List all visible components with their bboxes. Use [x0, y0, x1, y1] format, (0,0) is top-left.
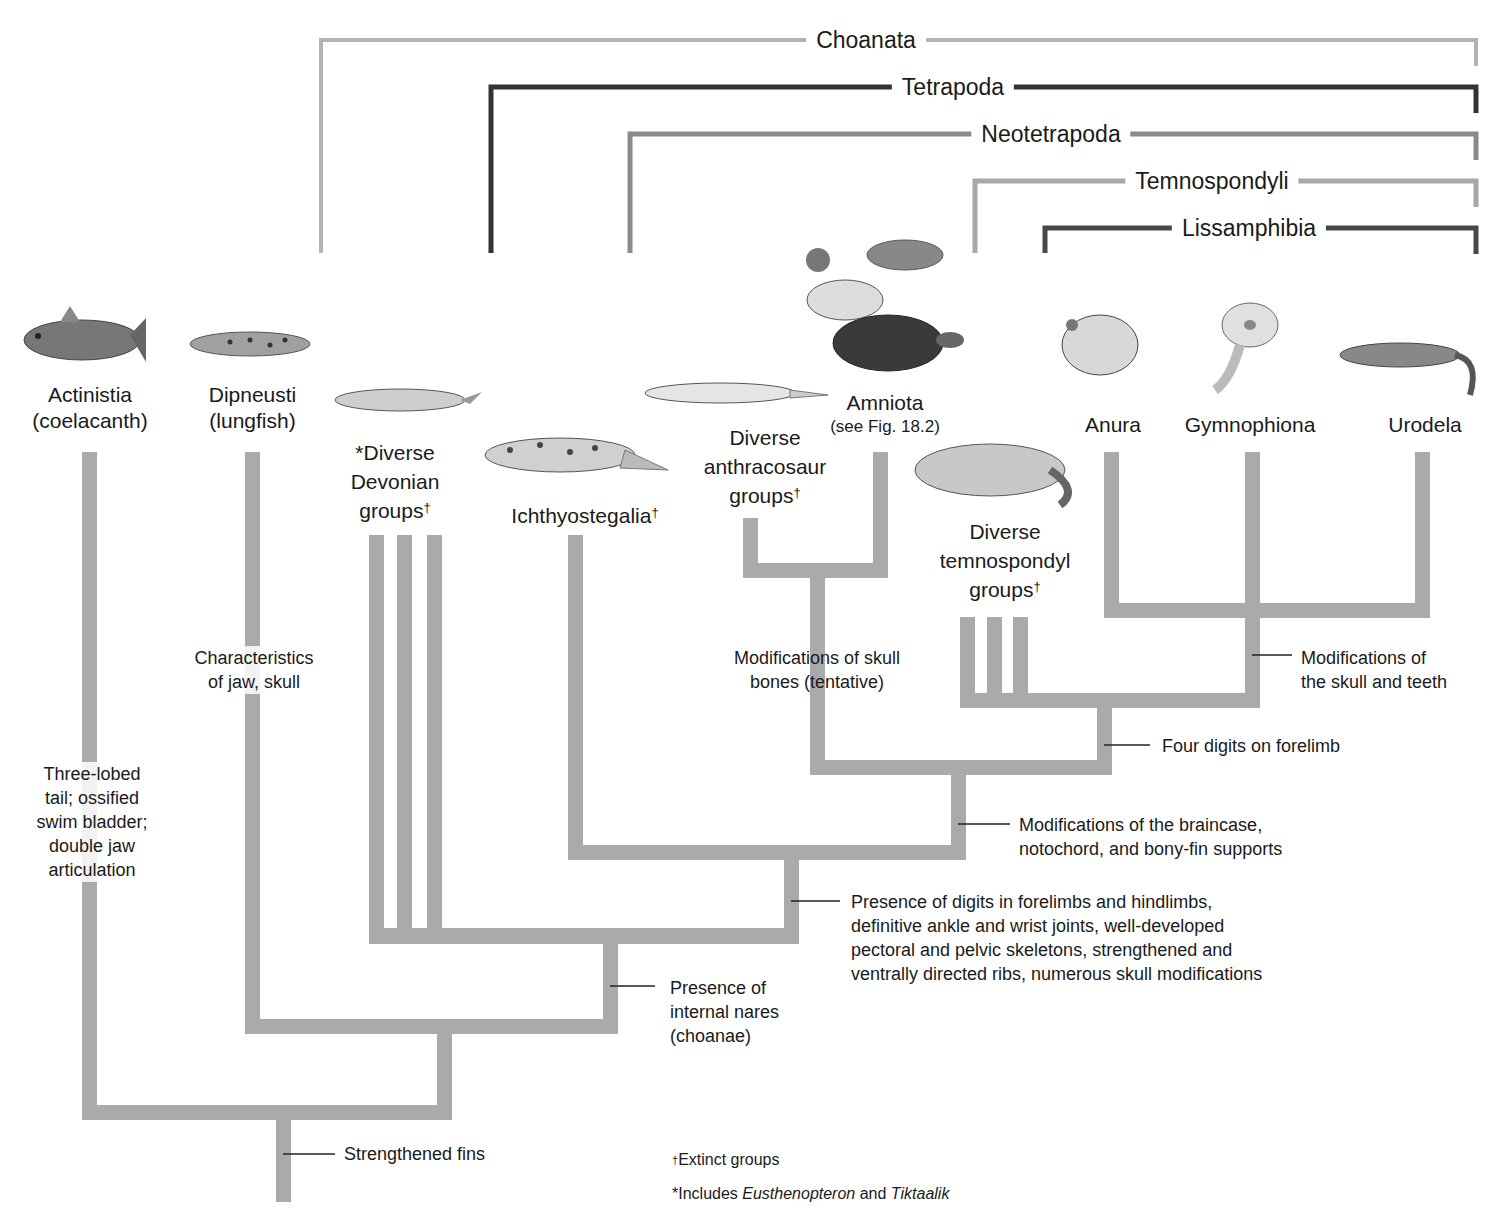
clade-label-tetrapoda: Tetrapoda	[892, 74, 1014, 100]
label-line: Modifications of	[1301, 646, 1447, 670]
taxon-temnospondyl-groups: Diverse temnospondyl groups†	[920, 517, 1090, 604]
clade-bracket-neotetrapoda	[630, 134, 1476, 253]
footnote-extinct: †Extinct groups	[672, 1150, 780, 1170]
footnote-includes: *Includes Eusthenopteron and Tiktaalik	[672, 1184, 949, 1204]
extinct-dagger: †	[423, 500, 430, 515]
label-line: anthracosaur	[690, 452, 840, 481]
ichthyostega-icon	[485, 438, 668, 472]
taxon-actinistia: Actinistia (coelacanth)	[20, 382, 160, 434]
footnote-text: Extinct groups	[678, 1151, 779, 1168]
character-three-lobed-tail: Three-lobed tail; ossified swim bladder;…	[22, 762, 162, 882]
taxon-devonian-groups: *Diverse Devonian groups†	[335, 438, 455, 525]
label-line: Three-lobed	[22, 762, 162, 786]
taxon-urodela: Urodela	[1370, 412, 1480, 438]
character-strengthened-fins: Strengthened fins	[344, 1142, 485, 1166]
taxon-name: Dipneusti	[185, 382, 320, 408]
character-four-digits: Four digits on forelimb	[1162, 734, 1340, 758]
label-line: groups†	[335, 496, 455, 525]
label-line: ventrally directed ribs, numerous skull …	[851, 962, 1262, 986]
taxon-anura: Anura	[1070, 412, 1156, 438]
label-line: pectoral and pelvic skeletons, strengthe…	[851, 938, 1262, 962]
taxon-dipneusti: Dipneusti (lungfish)	[185, 382, 320, 434]
label-line: articulation	[22, 858, 162, 882]
label-line: groups†	[690, 481, 840, 510]
taxon-name: Amniota	[815, 390, 955, 416]
label-line: notochord, and bony-fin supports	[1019, 837, 1282, 861]
figure-reference: (see Fig. 18.2)	[815, 416, 955, 438]
character-skull-bones: Modifications of skull bones (tentative)	[712, 646, 922, 694]
label-line: Presence of digits in forelimbs and hind…	[851, 890, 1262, 914]
label-line: Characteristics	[180, 646, 328, 670]
clade-label-neotetrapoda: Neotetrapoda	[971, 121, 1130, 147]
clade-label-choanata: Choanata	[806, 27, 926, 53]
label-line: Diverse	[920, 517, 1090, 546]
genus-name: Tiktaalik	[891, 1185, 950, 1202]
character-braincase: Modifications of the braincase, notochor…	[1019, 813, 1282, 861]
label-line: Presence of	[670, 976, 779, 1000]
label-line: swim bladder;	[22, 810, 162, 834]
extinct-dagger: †	[793, 485, 800, 500]
label-text: groups	[729, 484, 793, 507]
character-digits-limbs: Presence of digits in forelimbs and hind…	[851, 890, 1262, 986]
extinct-dagger: †	[651, 505, 658, 520]
taxon-common-name: (coelacanth)	[20, 408, 160, 434]
label-line: of jaw, skull	[180, 670, 328, 694]
frog-icon	[1062, 315, 1138, 375]
taxon-amniota: Amniota (see Fig. 18.2)	[815, 390, 955, 438]
character-skull-teeth: Modifications of the skull and teeth	[1301, 646, 1447, 694]
label-line: internal nares	[670, 1000, 779, 1024]
salamander-icon	[1340, 343, 1473, 395]
character-jaw-skull: Characteristics of jaw, skull	[180, 646, 328, 694]
label-line: tail; ossified	[22, 786, 162, 810]
turtle-icon	[833, 315, 964, 371]
label-line: the skull and teeth	[1301, 670, 1447, 694]
lungfish-icon	[190, 332, 310, 356]
coelacanth-icon	[24, 306, 146, 362]
label-line: double jaw	[22, 834, 162, 858]
extinct-dagger: †	[1033, 579, 1040, 594]
taxon-ichthyostegalia: Ichthyostegalia†	[495, 503, 675, 529]
temnospondyl-icon	[915, 444, 1068, 505]
label-line: bones (tentative)	[712, 670, 922, 694]
clade-label-lissamphibia: Lissamphibia	[1172, 215, 1326, 241]
label-text: groups	[969, 578, 1033, 601]
taxon-name: Ichthyostegalia	[511, 504, 651, 527]
character-internal-nares: Presence of internal nares (choanae)	[670, 976, 779, 1048]
label-line: definitive ankle and wrist joints, well-…	[851, 914, 1262, 938]
genus-name: Eusthenopteron	[742, 1185, 855, 1202]
footnote-text: and	[855, 1185, 891, 1202]
label-text: groups	[359, 499, 423, 522]
taxon-name: Actinistia	[20, 382, 160, 408]
phylogeny-diagram: Choanata Tetrapoda Neotetrapoda Temnospo…	[0, 0, 1500, 1224]
label-line: Modifications of the braincase,	[1019, 813, 1282, 837]
label-line: (choanae)	[670, 1024, 779, 1048]
taxon-common-name: (lungfish)	[185, 408, 320, 434]
shrew-icon	[867, 240, 943, 270]
caecilian-icon	[1215, 303, 1278, 390]
footnote-text: *Includes	[672, 1185, 742, 1202]
label-line: Modifications of skull	[712, 646, 922, 670]
clade-label-temnospondyli: Temnospondyli	[1125, 168, 1298, 194]
label-line: temnospondyl	[920, 546, 1090, 575]
anthracosaur-icon	[645, 383, 828, 403]
label-line: *Diverse	[335, 438, 455, 467]
label-line: groups†	[920, 575, 1090, 604]
devonian-fish-icon	[335, 389, 482, 411]
label-line: Devonian	[335, 467, 455, 496]
taxon-gymnophiona: Gymnophiona	[1170, 412, 1330, 438]
